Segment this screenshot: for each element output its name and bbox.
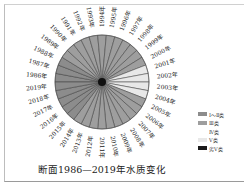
legend-item: Ⅲ类 bbox=[198, 119, 244, 127]
year-label: 2009年 bbox=[119, 132, 134, 155]
legend-item: Ⅳ类 bbox=[198, 127, 244, 135]
legend: Ⅰ～Ⅱ类 Ⅲ类 Ⅳ类 Ⅴ类 劣Ⅴ类 bbox=[198, 110, 244, 153]
legend-label: Ⅲ类 bbox=[209, 119, 219, 126]
year-label: 2001年 bbox=[154, 57, 177, 71]
year-label: 1993年 bbox=[84, 6, 96, 28]
year-label: 1994年 bbox=[98, 6, 106, 27]
legend-swatch bbox=[198, 146, 207, 150]
legend-swatch bbox=[198, 112, 207, 116]
chart-title: 断面1986—2019年水质变化 bbox=[0, 162, 204, 176]
legend-label: Ⅴ类 bbox=[209, 136, 218, 143]
legend-item: Ⅴ类 bbox=[198, 136, 244, 144]
legend-swatch bbox=[198, 138, 207, 142]
year-label: 1995年 bbox=[108, 6, 120, 28]
year-label: 2011年 bbox=[98, 137, 106, 158]
year-label: 2010年 bbox=[109, 135, 121, 157]
year-label: 1987年 bbox=[28, 57, 51, 71]
pie-chart: 1986年1987年1988年1989年1990年1991年1992年1993年… bbox=[0, 0, 244, 189]
year-label: 2012年 bbox=[84, 135, 96, 157]
legend-label: Ⅰ～Ⅱ类 bbox=[209, 111, 224, 118]
year-label: 2019年 bbox=[26, 83, 48, 93]
legend-item: Ⅰ～Ⅱ类 bbox=[198, 110, 244, 118]
legend-item: 劣Ⅴ类 bbox=[198, 144, 244, 152]
year-label: 2002年 bbox=[156, 71, 178, 81]
year-label: 1986年 bbox=[26, 71, 48, 81]
year-label: 2013年 bbox=[70, 132, 85, 155]
year-label: 2003年 bbox=[156, 83, 178, 93]
legend-label: Ⅳ类 bbox=[209, 128, 219, 135]
legend-label: 劣Ⅴ类 bbox=[209, 145, 223, 152]
legend-swatch bbox=[198, 121, 207, 125]
legend-swatch bbox=[198, 129, 207, 133]
pie-center bbox=[98, 78, 106, 86]
